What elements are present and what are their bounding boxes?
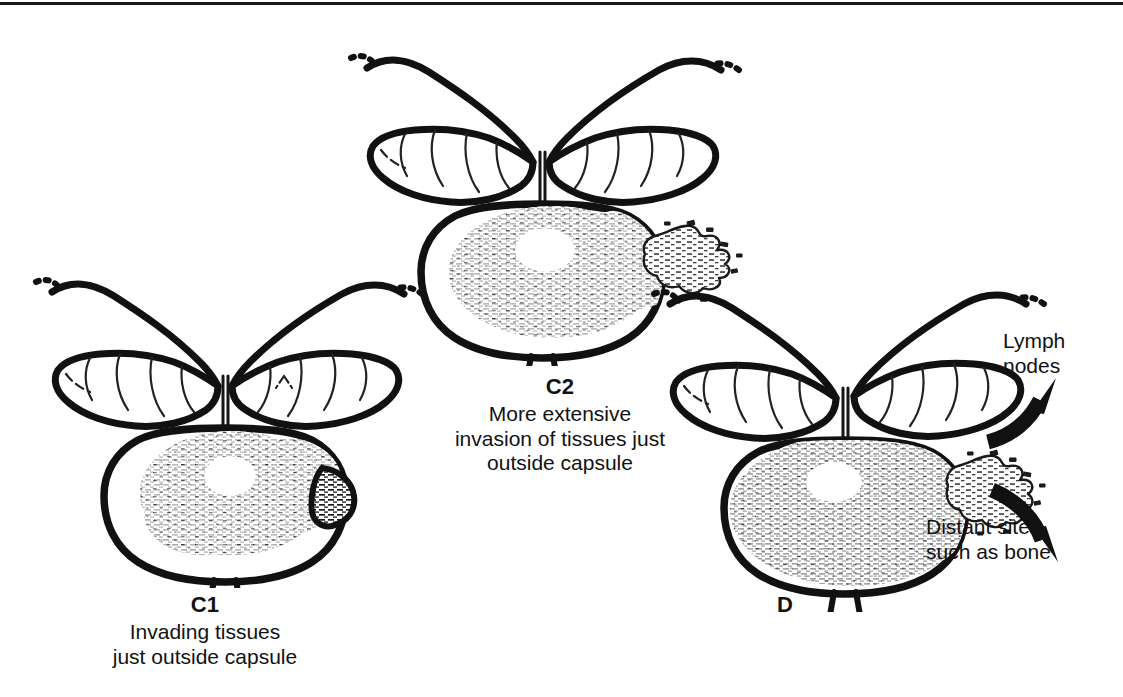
top-border-rule [0,2,1123,5]
ejaculatory-duct [843,388,848,440]
annotation-distant-sites-line-2: such as bone [926,539,1051,564]
caption-stage-d: D [730,592,840,620]
annotation-lymph-nodes-line-2: nodes [1003,353,1065,378]
seminal-vesicle-left [370,129,533,202]
annotation-distant-sites: Distant sites, such as bone [926,514,1051,564]
seminal-vesicle-right [549,129,716,202]
vas-deferens-left-dashed [654,292,676,298]
staging-figure: C1 Invading tissues just outside capsule [0,0,1123,697]
seminal-vesicle-left [55,353,218,426]
seminal-vesicle-right [854,363,1021,436]
annotation-distant-sites-line-1: Distant sites, [926,514,1051,539]
ejaculatory-duct [223,376,228,428]
annotation-lymph-nodes: Lymph nodes [1003,328,1065,378]
vas-deferens-left-dashed [351,56,373,62]
seminal-vesicle-left [673,365,836,438]
caption-line-c1-1: Invading tissues [75,620,335,645]
caption-line-c1-2: just outside capsule [75,645,335,670]
ejaculatory-duct [540,152,545,204]
vas-deferens-left-dashed [36,280,58,286]
caption-stage-c1: C1 Invading tissues just outside capsule [75,592,335,669]
stage-label-d: D [730,592,840,618]
annotation-lymph-nodes-line-1: Lymph [1003,328,1065,353]
tumor-capsule-bulge [311,468,354,526]
stage-label-c1: C1 [75,592,335,618]
